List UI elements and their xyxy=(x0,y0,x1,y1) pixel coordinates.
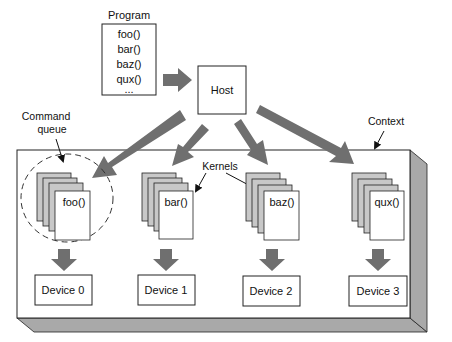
program-fn-baz: baz() xyxy=(116,58,141,70)
program-to-host-arrow xyxy=(163,68,192,92)
kernel-label-foo: foo() xyxy=(63,196,86,208)
program-fn-bar: bar() xyxy=(117,43,140,55)
device-label-2: Device 2 xyxy=(250,285,293,297)
context-right-edge xyxy=(410,150,427,332)
kernel-label-qux: qux() xyxy=(374,196,399,208)
context-pointer xyxy=(375,131,384,148)
command-queue-label-line1: Command xyxy=(22,110,71,122)
kernels-label: Kernels xyxy=(202,160,238,172)
program-fn-foo: foo() xyxy=(118,28,141,40)
host-label: Host xyxy=(211,84,234,96)
kernel-label-bar: bar() xyxy=(164,196,187,208)
kernel-label-baz: baz() xyxy=(269,196,294,208)
opencl-context-diagram: Program foo() bar() baz() qux() ... Host… xyxy=(0,0,452,342)
program-title: Program xyxy=(108,9,150,21)
context-label: Context xyxy=(368,115,404,127)
device-label-3: Device 3 xyxy=(357,285,400,297)
program-fn-more: ... xyxy=(124,83,133,95)
program-block: Program foo() bar() baz() qux() ... xyxy=(102,9,156,95)
context-bottom-edge xyxy=(17,318,427,332)
device-label-0: Device 0 xyxy=(42,284,85,296)
command-queue-label-line2: queue xyxy=(37,123,66,135)
device-label-1: Device 1 xyxy=(145,284,188,296)
